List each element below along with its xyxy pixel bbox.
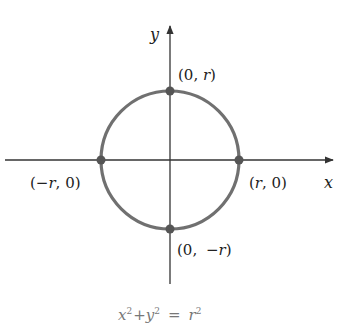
label-right: (r, 0) — [249, 174, 287, 192]
point-right — [235, 156, 244, 165]
circle-diagram: y x (0, r) (0, −r) (−r, 0) (r, 0) x2+y2=… — [0, 0, 351, 335]
x-axis-label: x — [324, 173, 333, 192]
y-axis-label: y — [149, 25, 160, 44]
label-bottom: (0, −r) — [177, 241, 232, 259]
point-top — [166, 87, 175, 96]
label-left: (−r, 0) — [30, 174, 81, 192]
point-left — [97, 156, 106, 165]
point-bottom — [166, 225, 175, 234]
circle-equation: x2+y2=r2 — [118, 306, 201, 324]
label-top: (0, r) — [178, 66, 216, 84]
